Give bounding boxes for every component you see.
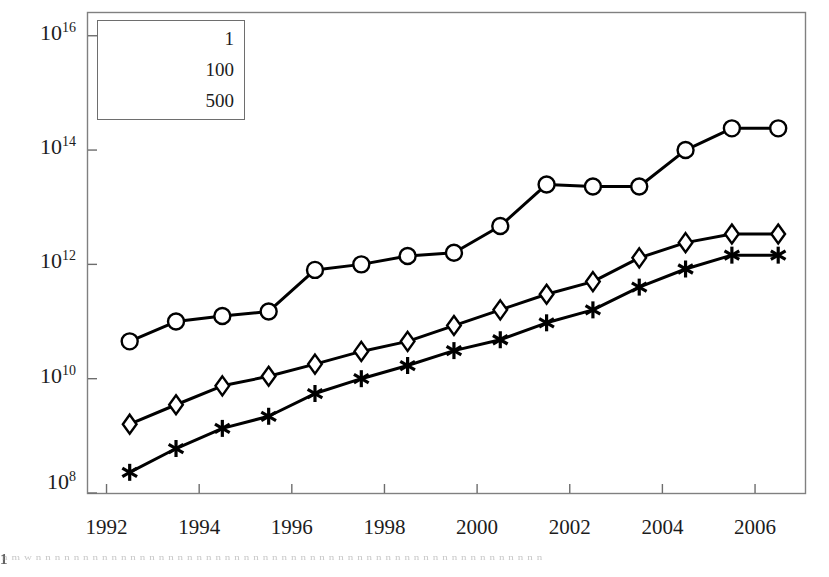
y-axis-tick-label: 1012 xyxy=(40,250,76,272)
x-axis-tick-label: 1992 xyxy=(62,517,152,538)
chart-legend: 1100500 xyxy=(97,20,245,120)
x-axis-tick-label: 2006 xyxy=(710,517,800,538)
y-axis-tick-label: 108 xyxy=(47,471,76,493)
x-axis-tick-label: 2002 xyxy=(525,517,615,538)
y-axis-ticks xyxy=(88,36,97,493)
legend-label-1: 1 xyxy=(225,28,235,50)
x-axis-tick-label: 2004 xyxy=(617,517,707,538)
chart-container: 1081010101210141016 19921994199619982000… xyxy=(0,0,829,577)
x-axis-tick-label: 1996 xyxy=(247,517,337,538)
y-axis-tick-label: 1010 xyxy=(40,365,76,387)
data-series-500 xyxy=(122,247,785,481)
y-axis-tick-label: 1016 xyxy=(40,22,76,44)
x-axis-tick-label: 1994 xyxy=(154,517,244,538)
x-axis-tick-label: 1998 xyxy=(339,517,429,538)
x-axis-ticks xyxy=(107,484,756,493)
y-axis-tick-label: 1014 xyxy=(40,136,76,158)
x-axis-tick-label: 2000 xyxy=(432,517,522,538)
legend-label-500: 500 xyxy=(206,90,235,112)
data-series-group xyxy=(122,120,787,480)
legend-label-100: 100 xyxy=(206,59,235,81)
